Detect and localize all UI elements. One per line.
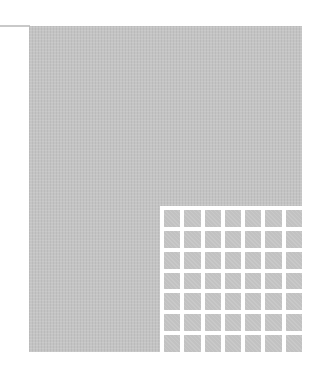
- grid-tile: [286, 231, 302, 248]
- grid-tile: [286, 210, 302, 227]
- grid-tile: [164, 293, 180, 310]
- grid-tile: [245, 314, 261, 331]
- grid-tile: [164, 252, 180, 269]
- grid-tile: [205, 293, 221, 310]
- grid-tile: [164, 210, 180, 227]
- grid-tile: [225, 293, 241, 310]
- grid-tile: [265, 231, 281, 248]
- grid-tile: [164, 314, 180, 331]
- grid-tile: [164, 273, 180, 290]
- grid-tile: [286, 273, 302, 290]
- grid-tile: [184, 335, 200, 352]
- grid-tile: [225, 231, 241, 248]
- grid-tile: [184, 210, 200, 227]
- grid-tile: [205, 252, 221, 269]
- grid-tile: [265, 293, 281, 310]
- grid-tile: [164, 231, 180, 248]
- grid-tile: [184, 231, 200, 248]
- grid-tile: [225, 273, 241, 290]
- grid-tile: [286, 252, 302, 269]
- grid-tile: [184, 273, 200, 290]
- grid-tile: [225, 210, 241, 227]
- grid-tile: [164, 335, 180, 352]
- tile-grid: [160, 206, 302, 352]
- grid-tile: [245, 252, 261, 269]
- grid-tile: [184, 293, 200, 310]
- grid-tile: [245, 335, 261, 352]
- grid-tile: [286, 335, 302, 352]
- grid-tile: [205, 314, 221, 331]
- grid-tile: [286, 293, 302, 310]
- grid-tile: [205, 335, 221, 352]
- grid-tile: [245, 273, 261, 290]
- grid-tile: [265, 273, 281, 290]
- grid-tile: [184, 314, 200, 331]
- grid-tile: [245, 293, 261, 310]
- grid-tile: [265, 210, 281, 227]
- grid-tile: [245, 210, 261, 227]
- grid-tile: [184, 252, 200, 269]
- grid-tile: [225, 335, 241, 352]
- grid-tile: [265, 314, 281, 331]
- grid-tile: [265, 335, 281, 352]
- grid-tile: [225, 252, 241, 269]
- top-left-rule: [0, 25, 30, 27]
- grid-tile: [225, 314, 241, 331]
- grid-tile: [245, 231, 261, 248]
- grid-tile: [286, 314, 302, 331]
- grid-tile: [265, 252, 281, 269]
- grid-tile: [205, 210, 221, 227]
- grid-tile: [205, 231, 221, 248]
- grid-tile: [205, 273, 221, 290]
